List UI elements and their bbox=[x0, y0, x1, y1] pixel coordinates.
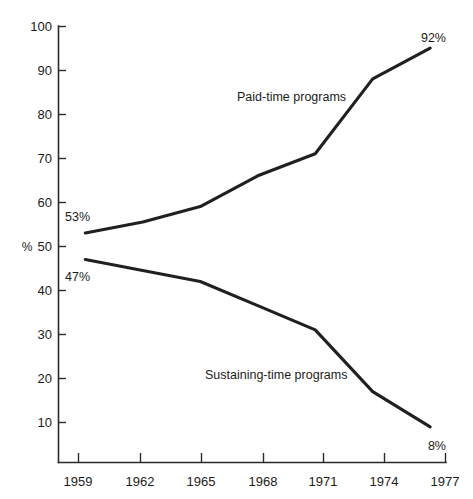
x-tick-label-1977: 1977 bbox=[431, 474, 460, 489]
y-tick-label-10: 10 bbox=[38, 415, 52, 430]
x-tick-label-1965: 1965 bbox=[187, 474, 216, 489]
x-tick-label-1968: 1968 bbox=[249, 474, 278, 489]
y-tick-label-50: 50 bbox=[38, 239, 52, 254]
series-line-paid-time bbox=[85, 48, 430, 233]
y-tick-label-100: 100 bbox=[30, 19, 52, 34]
data-label-paid-end: 92% bbox=[421, 31, 446, 45]
y-tick-label-30: 30 bbox=[38, 327, 52, 342]
data-label-sustaining-start: 47% bbox=[65, 270, 90, 284]
series-label-paid-time: Paid-time programs bbox=[237, 90, 346, 104]
x-tick-label-1962: 1962 bbox=[126, 474, 155, 489]
y-axis-unit-label: % bbox=[22, 240, 33, 254]
x-tick-label-1959: 1959 bbox=[64, 474, 93, 489]
x-tick-labels: 1959 1962 1965 1968 1971 1974 1977 bbox=[64, 474, 460, 489]
y-tick-label-90: 90 bbox=[38, 63, 52, 78]
x-tick-label-1974: 1974 bbox=[370, 474, 399, 489]
x-tick-marks bbox=[79, 453, 446, 463]
y-tick-label-80: 80 bbox=[38, 107, 52, 122]
y-tick-label-60: 60 bbox=[38, 195, 52, 210]
y-tick-label-20: 20 bbox=[38, 371, 52, 386]
y-tick-label-70: 70 bbox=[38, 151, 52, 166]
series-line-sustaining-time bbox=[85, 259, 430, 426]
x-tick-label-1971: 1971 bbox=[309, 474, 338, 489]
y-tick-label-40: 40 bbox=[38, 283, 52, 298]
line-chart: 100 90 80 70 60 50 40 30 20 10 % 1959 19… bbox=[0, 0, 473, 499]
data-label-sustaining-end: 8% bbox=[428, 439, 446, 453]
y-tick-marks bbox=[59, 27, 67, 423]
chart-container: 100 90 80 70 60 50 40 30 20 10 % 1959 19… bbox=[0, 0, 473, 499]
series-label-sustaining-time: Sustaining-time programs bbox=[205, 368, 347, 382]
y-tick-labels: 100 90 80 70 60 50 40 30 20 10 bbox=[30, 19, 52, 430]
data-label-paid-start: 53% bbox=[65, 210, 90, 224]
